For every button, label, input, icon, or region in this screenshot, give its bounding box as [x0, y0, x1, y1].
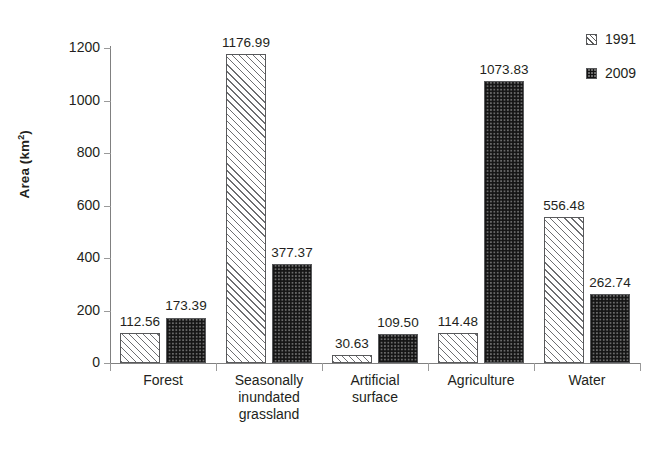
y-axis-tick-label: 200: [44, 302, 100, 318]
x-axis-category-label-line: Water: [534, 372, 640, 389]
bar-1991-agriculture[interactable]: [438, 333, 478, 363]
y-axis-tick-label: 800: [44, 144, 100, 160]
x-axis-category-label-line: Forest: [110, 372, 216, 389]
bar-2009-forest[interactable]: [166, 318, 206, 364]
y-axis-tick-label: 1000: [44, 92, 100, 108]
x-axis-category-label: Water: [534, 372, 640, 389]
bar-2009-artificial-surface[interactable]: [378, 334, 418, 363]
x-axis-category-label-line: grassland: [216, 406, 322, 423]
x-axis-tick: [640, 363, 641, 371]
bar-value-label: 173.39: [150, 298, 222, 313]
y-axis-tick-label: 600: [44, 197, 100, 213]
bar-value-label: 556.48: [528, 198, 600, 213]
bar-2009-agriculture[interactable]: [484, 81, 524, 363]
x-axis-tick: [110, 363, 111, 371]
x-axis-category-label-line: inundated: [216, 389, 322, 406]
y-axis-title: Area (km2): [16, 104, 33, 224]
y-axis-tick-label: 400: [44, 249, 100, 265]
x-axis-category-label: Forest: [110, 372, 216, 389]
bar-1991-artificial-surface[interactable]: [332, 355, 372, 363]
x-axis-line: [110, 363, 640, 364]
legend-entry-1991[interactable]: 1991: [586, 22, 636, 56]
legend-swatch-icon-1991: [586, 34, 597, 45]
bar-value-label: 109.50: [362, 315, 434, 330]
x-axis-tick: [534, 363, 535, 371]
bar-1991-seasonally-inundated-grassland[interactable]: [226, 54, 266, 363]
legend-entry-2009[interactable]: 2009: [586, 56, 636, 90]
bar-value-label: 377.37: [256, 245, 328, 260]
y-axis-title-exponent: 2: [16, 135, 26, 140]
bar-value-label: 1176.99: [210, 35, 282, 50]
x-axis-category-label: Agriculture: [428, 372, 534, 389]
x-axis-category-label-line: surface: [322, 389, 428, 406]
bar-2009-seasonally-inundated-grassland[interactable]: [272, 264, 312, 363]
y-axis-tick-label: 1200: [44, 39, 100, 55]
x-axis-tick: [216, 363, 217, 371]
legend-swatch-icon-2009: [586, 68, 597, 79]
x-axis-category-label-line: Seasonally: [216, 372, 322, 389]
y-axis-tick-label: 0: [44, 354, 100, 370]
x-axis-category-label-line: Agriculture: [428, 372, 534, 389]
legend: 1991 2009: [586, 22, 636, 90]
bar-value-label: 262.74: [574, 275, 646, 290]
legend-label-2009: 2009: [605, 65, 636, 81]
bar-1991-forest[interactable]: [120, 333, 160, 363]
bar-chart: Area (km2) 020040060080010001200 112.561…: [0, 0, 669, 452]
plot-area: 112.561176.9930.63114.48556.48173.39377.…: [110, 48, 640, 363]
legend-label-1991: 1991: [605, 31, 636, 47]
y-axis-title-close: ): [17, 130, 32, 135]
x-axis-tick: [322, 363, 323, 371]
y-axis-title-text: Area (km: [17, 140, 32, 199]
x-axis-category-label-line: Artificial: [322, 372, 428, 389]
x-axis-tick: [428, 363, 429, 371]
x-axis-category-label: Seasonallyinundatedgrassland: [216, 372, 322, 423]
bar-value-label: 1073.83: [468, 62, 540, 77]
bar-2009-water[interactable]: [590, 294, 630, 363]
x-axis-category-label: Artificialsurface: [322, 372, 428, 406]
